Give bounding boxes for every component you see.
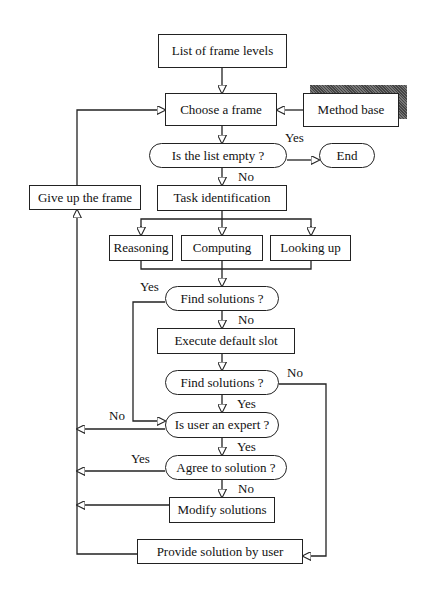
node-modify-solutions: Modify solutions <box>169 497 275 523</box>
node-label: Agree to solution ? <box>176 460 275 476</box>
edge-label-empty-yes: Yes <box>285 130 304 146</box>
node-label: Choose a frame <box>180 102 262 118</box>
edge-label-find1-yes: Yes <box>140 279 159 295</box>
edge-label-expert-yes: Yes <box>237 439 256 455</box>
decision-user-expert: Is user an expert ? <box>165 412 279 438</box>
edge-label-agree-yes: Yes <box>131 451 150 467</box>
node-looking-up: Looking up <box>270 235 351 261</box>
edge-label-find1-no: No <box>238 312 254 328</box>
decision-find-solutions-1: Find solutions ? <box>165 286 279 311</box>
node-label: Task identification <box>174 190 271 206</box>
node-execute-default-slot: Execute default slot <box>157 328 295 354</box>
node-computing: Computing <box>181 235 263 261</box>
terminal-end: End <box>319 143 375 168</box>
node-label: Is user an expert ? <box>175 417 270 433</box>
node-label: Find solutions ? <box>180 291 263 307</box>
node-list-of-frame-levels: List of frame levels <box>158 34 287 68</box>
node-label: Modify solutions <box>177 502 266 518</box>
node-label: List of frame levels <box>172 43 273 59</box>
node-label: Reasoning <box>114 240 169 256</box>
edge-label-find2-yes: Yes <box>237 396 256 412</box>
decision-agree-solution: Agree to solution ? <box>165 455 287 480</box>
edge-label-find2-no: No <box>287 365 303 381</box>
node-reasoning: Reasoning <box>109 235 173 261</box>
node-label: End <box>337 148 358 164</box>
edge-label-expert-no: No <box>109 408 125 424</box>
node-label: Is the list empty ? <box>172 148 264 164</box>
node-label: Method base <box>318 102 385 118</box>
node-label: Execute default slot <box>174 333 277 349</box>
node-label: Give up the frame <box>38 190 132 206</box>
edge-label-agree-no: No <box>238 481 254 497</box>
node-label: Looking up <box>280 240 340 256</box>
node-label: Provide solution by user <box>157 544 284 560</box>
edge-label-empty-no: No <box>238 169 254 185</box>
node-provide-solution-by-user: Provide solution by user <box>137 539 303 564</box>
node-choose-a-frame: Choose a frame <box>165 93 277 126</box>
node-label: Computing <box>193 240 252 256</box>
node-method-base: Method base <box>303 93 399 127</box>
decision-list-empty: Is the list empty ? <box>149 143 287 168</box>
node-give-up-frame: Give up the frame <box>29 185 141 210</box>
node-label: Find solutions ? <box>180 375 263 391</box>
node-task-identification: Task identification <box>157 185 287 211</box>
decision-find-solutions-2: Find solutions ? <box>165 370 279 395</box>
